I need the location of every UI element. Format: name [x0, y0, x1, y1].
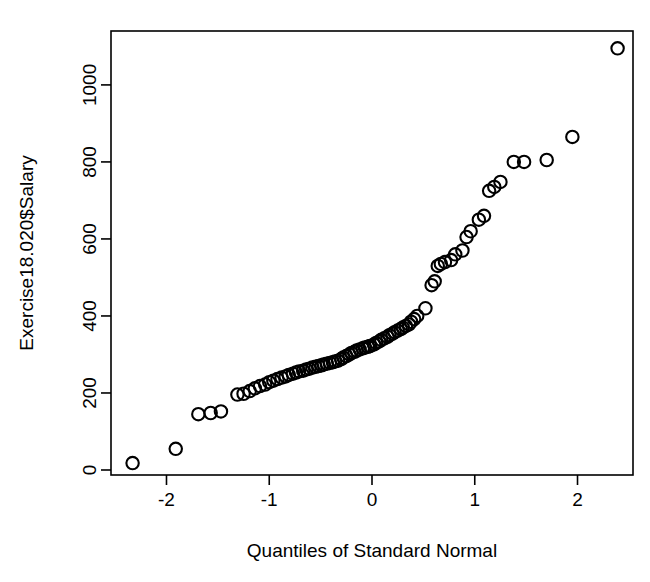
y-tick-label: 800: [79, 146, 100, 178]
x-axis-label: Quantiles of Standard Normal: [247, 540, 497, 561]
y-tick-label: 0: [79, 465, 100, 476]
x-tick-label: -1: [261, 489, 278, 510]
x-tick-label: -2: [158, 489, 175, 510]
y-tick-label: 1000: [79, 64, 100, 106]
qq-plot-figure: -2-1012 02004006008001000 Quantiles of S…: [0, 0, 650, 582]
y-tick-label: 200: [79, 377, 100, 409]
plot-canvas: -2-1012 02004006008001000 Quantiles of S…: [0, 0, 650, 582]
x-tick-label: 1: [469, 489, 480, 510]
x-tick-label: 0: [367, 489, 378, 510]
y-tick-label: 600: [79, 223, 100, 255]
x-tick-label: 2: [572, 489, 583, 510]
y-axis-label: Exercise18.020$Salary: [16, 155, 37, 351]
y-tick-label: 400: [79, 300, 100, 332]
